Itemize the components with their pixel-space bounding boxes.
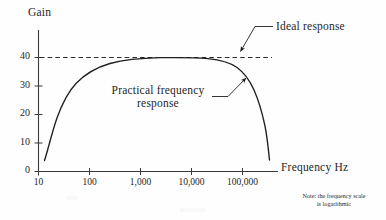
- y-tick-label-0: 0: [8, 164, 30, 175]
- figure-canvas: Gain Frequency Hz 0 10 20 30 40 10 100 1…: [0, 0, 386, 220]
- x-tick-label-10: 10: [23, 177, 55, 188]
- ideal-response-leader: [241, 27, 274, 52]
- practical-response-annotation-line1: Practical frequency: [112, 84, 205, 96]
- logarithmic-scale-note-line1: Note: the frequency scale: [302, 192, 365, 199]
- logarithmic-scale-note: Note: the frequency scaleis logarithmic: [284, 192, 384, 209]
- x-axis-title: Frequency Hz: [281, 161, 348, 174]
- y-axis-title: Gain: [28, 6, 51, 19]
- x-tick-label-100000: 100,000: [219, 177, 267, 188]
- ideal-response-annotation: Ideal response: [276, 20, 345, 33]
- x-tick-label-1000: 1,000: [121, 177, 161, 188]
- logarithmic-scale-note-line2: is logarithmic: [317, 200, 351, 207]
- x-tick-label-100: 100: [74, 177, 106, 188]
- practical-response-annotation: Practical frequencyresponse: [106, 84, 210, 110]
- y-tick-label-20: 20: [8, 107, 30, 118]
- practical-response-leader: [212, 78, 246, 97]
- x-tick-label-10000: 10,000: [170, 177, 214, 188]
- y-tick-label-30: 30: [8, 79, 30, 90]
- practical-response-annotation-line2: response: [106, 97, 210, 110]
- y-tick-label-40: 40: [8, 50, 30, 61]
- y-tick-label-10: 10: [8, 136, 30, 147]
